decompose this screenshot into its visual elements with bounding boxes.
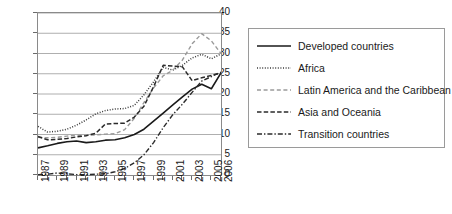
x-tick-mark [191, 176, 192, 180]
legend-item: Asia and Oceania [249, 101, 444, 123]
legend-label: Latin America and the Caribbean [298, 85, 451, 96]
legend-item: Africa [249, 57, 444, 79]
x-tick-label: 2001 [176, 160, 186, 182]
legend-item: Transition countries [249, 123, 444, 145]
legend-item: Latin America and the Caribbean [249, 79, 444, 101]
x-tick-label: 1987 [41, 160, 51, 182]
chart-screenshot: 0510152025303540 19871989199119931995199… [0, 0, 452, 214]
x-tick-label: 1995 [118, 160, 128, 182]
x-tick-label: 2003 [195, 160, 205, 182]
legend-line-icon [257, 41, 291, 51]
x-tick-mark [133, 176, 134, 180]
x-tick-mark [114, 176, 115, 180]
x-tick-mark [76, 176, 77, 180]
x-tick-mark [37, 176, 38, 180]
x-tick-mark [172, 176, 173, 180]
legend-label: Transition countries [298, 129, 389, 140]
series-lines [38, 13, 221, 175]
legend-line-icon [257, 107, 291, 117]
legend-label: Africa [298, 63, 325, 74]
series-line-3 [38, 65, 221, 140]
x-tick-label: 1989 [60, 160, 70, 182]
legend-line-icon [257, 85, 291, 95]
legend-item: Developed countries [249, 35, 444, 57]
x-tick-label: 1997 [137, 160, 147, 182]
x-tick-mark [153, 176, 154, 180]
plot-frame [37, 12, 222, 176]
x-tick-label: 1993 [99, 160, 109, 182]
x-tick-mark [210, 176, 211, 180]
x-tick-label: 1999 [157, 160, 167, 182]
x-tick-mark [56, 176, 57, 180]
x-tick-label: 1991 [80, 160, 90, 182]
chart-legend: Developed countriesAfricaLatin America a… [248, 28, 445, 148]
plot-area: 0510152025303540 19871989199119931995199… [0, 0, 230, 214]
legend-line-icon [257, 63, 291, 73]
legend-label: Developed countries [298, 41, 394, 52]
x-tick-mark [95, 176, 96, 180]
x-tick-label: 2006 [224, 160, 234, 182]
legend-line-icon [257, 129, 291, 139]
legend-label: Asia and Oceania [298, 107, 381, 118]
series-line-2 [38, 34, 221, 138]
